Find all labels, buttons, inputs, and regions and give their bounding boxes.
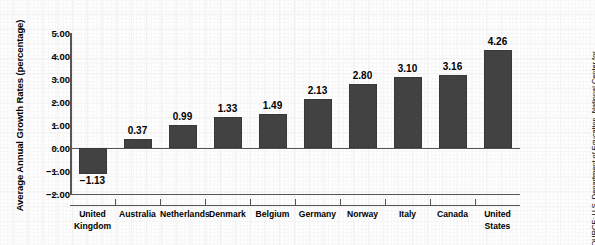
bar-value-label: 4.26 <box>468 36 528 47</box>
y-axis-tick-mark <box>52 56 58 57</box>
bar-value-label: 2.13 <box>288 85 348 96</box>
bar-value-label: 0.37 <box>108 125 168 136</box>
x-axis-category-label-line: Kingdom <box>70 221 115 233</box>
x-axis-category-label-line: Netherlands <box>160 209 205 221</box>
x-axis-category-label-line: Australia <box>115 209 160 221</box>
y-axis-tick-group: 5.004.003.002.001.000.00−1.00−2.00 <box>18 0 70 245</box>
y-axis-tick-label: 3.00 <box>24 74 70 85</box>
x-axis-category-label-line: Canada <box>430 209 475 221</box>
x-axis-category-label: UnitedStates <box>475 209 520 232</box>
x-axis-category-label: Belgium <box>250 209 295 221</box>
source-note: SOURCE: U.S. Department of Education, Na… <box>590 19 595 245</box>
x-axis-category-label: Germany <box>295 209 340 221</box>
bar-value-label: 3.16 <box>423 61 483 72</box>
x-axis-category-label: Canada <box>430 209 475 221</box>
bar <box>259 114 287 148</box>
y-axis-tick-label: 1.00 <box>24 120 70 131</box>
y-axis-tick-label: 0.00 <box>24 143 70 154</box>
bar <box>439 75 467 148</box>
bar-value-label: −1.13 <box>63 175 123 186</box>
x-axis-category-label-line: Denmark <box>205 209 250 221</box>
plot-bottom-border <box>70 194 520 195</box>
x-axis-category-separator <box>160 199 161 206</box>
x-axis-category-label: Italy <box>385 209 430 221</box>
x-axis-category-separator <box>385 199 386 206</box>
bar <box>394 77 422 148</box>
x-axis-category-label: Denmark <box>205 209 250 221</box>
bar <box>349 84 377 148</box>
y-axis-tick-mark <box>52 171 58 172</box>
bar <box>484 50 512 148</box>
bar <box>214 117 242 148</box>
y-axis-tick-label: −2.00 <box>24 189 70 200</box>
x-axis-category-label-line: United <box>475 209 520 221</box>
bar <box>79 148 107 174</box>
x-axis-category-separator <box>430 199 431 206</box>
source-note-container: SOURCE: U.S. Department of Education, Na… <box>543 0 595 245</box>
x-axis-category-separator <box>475 199 476 206</box>
y-axis-tick-mark <box>52 33 58 34</box>
y-axis-tick-label: 5.00 <box>24 28 70 39</box>
x-axis-category-label: Australia <box>115 209 160 221</box>
source-prefix: SOURCE: U.S. Department of Education, Na… <box>590 51 595 245</box>
x-axis-category-label-line: Italy <box>385 209 430 221</box>
x-axis-category-label-line: United <box>70 209 115 221</box>
x-axis-category-label: Netherlands <box>160 209 205 221</box>
x-axis-category-label-line: States <box>475 221 520 233</box>
bar-chart: Average Annual Growth Rates (percentage)… <box>0 0 595 245</box>
x-axis-category-label-line: Norway <box>340 209 385 221</box>
bar-value-label: 1.49 <box>243 100 303 111</box>
y-axis-tick-mark <box>52 148 58 149</box>
x-axis-category-label-line: Germany <box>295 209 340 221</box>
y-axis-tick-mark <box>52 194 58 195</box>
x-axis-category-separator <box>295 199 296 206</box>
y-axis-tick-mark <box>52 125 58 126</box>
y-axis-tick-mark <box>52 79 58 80</box>
x-axis-category-label-line: Belgium <box>250 209 295 221</box>
bar <box>169 125 197 148</box>
x-axis-category-separator <box>115 199 116 206</box>
x-axis-category-separator <box>205 199 206 206</box>
zero-baseline <box>70 148 520 149</box>
bar <box>124 139 152 148</box>
x-axis-category-label: Norway <box>340 209 385 221</box>
y-axis-tick-mark <box>52 102 58 103</box>
x-axis-category-label: UnitedKingdom <box>70 209 115 232</box>
x-axis-category-separator <box>250 199 251 206</box>
y-axis-tick-label: 4.00 <box>24 51 70 62</box>
y-axis-tick-label: 2.00 <box>24 97 70 108</box>
bar <box>304 99 332 148</box>
x-axis-category-separator <box>340 199 341 206</box>
